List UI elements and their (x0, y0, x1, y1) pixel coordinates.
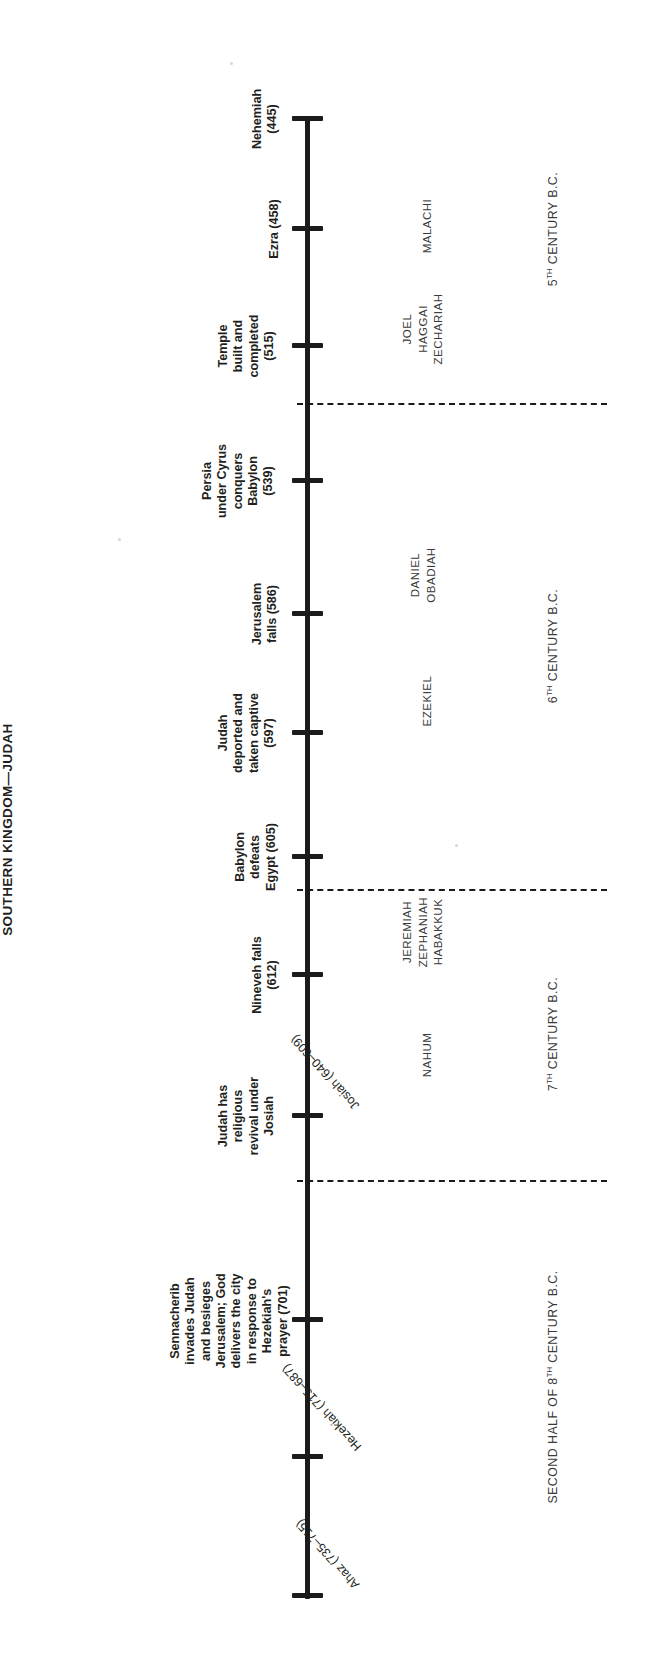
era-divider (297, 889, 607, 891)
century-label: 6TH CENTURY B.C. (545, 589, 560, 703)
century-ordinal: TH (545, 268, 554, 279)
event-label: Babylon defeats Egypt (605) (233, 823, 279, 891)
event-label: Judah has religious revival under Josiah (216, 1077, 277, 1155)
axis-tick (292, 730, 323, 735)
century-label: 5TH CENTURY B.C. (545, 172, 560, 286)
page-title: SOUTHERN KINGDOM—JUDAH (0, 0, 15, 1659)
century-prefix: 5 (546, 279, 560, 286)
century-ordinal: TH (545, 685, 554, 696)
axis-tick (292, 854, 323, 859)
prophet-list: MALACHI (420, 199, 436, 254)
axis-tick (292, 972, 323, 977)
axis-tick (292, 226, 323, 231)
axis-tick (292, 611, 323, 616)
king-reign-label: Josiah (640–609) (288, 1032, 362, 1113)
event-label: Judah deported and taken captive (597) (216, 693, 277, 773)
scan-speck (230, 62, 233, 65)
prophet-list: JEREMIAH ZEPHANIAH HABAKKUK (400, 897, 447, 967)
king-reign-label: Ahaz (735–715) (293, 1517, 362, 1592)
axis-tick (292, 1317, 323, 1322)
axis-tick (292, 343, 323, 348)
century-label: SECOND HALF OF 8TH CENTURY B.C. (545, 1270, 560, 1503)
axis-tick (292, 1113, 323, 1118)
king-reign-label: Hezekiah (715–687) (279, 1361, 364, 1453)
prophet-list: DANIEL OBADIAH (408, 547, 439, 602)
century-prefix: 6 (546, 696, 560, 703)
axis-tick (292, 116, 323, 121)
prophet-list: EZEKIEL (420, 676, 436, 727)
century-prefix: 7 (546, 1084, 560, 1091)
era-divider (297, 1180, 607, 1182)
event-label: Nehemiah (445) (250, 89, 281, 149)
event-label: Jerusalem falls (586) (250, 583, 281, 645)
century-prefix: SECOND HALF OF 8 (546, 1377, 560, 1503)
timeline-canvas: SOUTHERN KINGDOM—JUDAH Sennacherib invad… (0, 0, 672, 1659)
century-suffix: CENTURY B.C. (546, 172, 560, 268)
event-label: Ezra (458) (267, 199, 282, 259)
axis-tick (292, 1454, 323, 1459)
axis-tick (292, 478, 323, 483)
prophet-list: NAHUM (420, 1033, 436, 1078)
event-label: Sennacherib invades Judah and besieges J… (168, 1273, 291, 1368)
century-suffix: CENTURY B.C. (546, 977, 560, 1073)
event-label: Persia under Cyrus conquers Babylon (539… (200, 444, 277, 518)
century-label: 7TH CENTURY B.C. (545, 977, 560, 1091)
century-ordinal: TH (545, 1367, 554, 1378)
era-divider (297, 403, 607, 405)
scan-speck (455, 844, 458, 847)
event-label: Temple built and completed (515) (216, 315, 277, 378)
axis-tick (292, 1593, 323, 1598)
scan-speck (118, 538, 121, 541)
event-label: Nineveh falls (612) (250, 936, 281, 1014)
prophet-list: JOEL HAGGAI ZECHARIAH (400, 294, 447, 365)
century-suffix: CENTURY B.C. (546, 589, 560, 685)
century-suffix: CENTURY B.C. (546, 1270, 560, 1366)
century-ordinal: TH (545, 1073, 554, 1084)
